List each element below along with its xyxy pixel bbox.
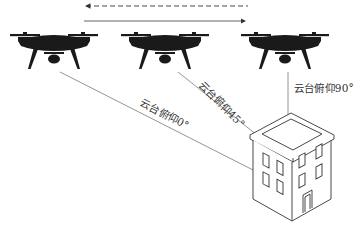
drone-icon <box>121 32 209 69</box>
diagram-canvas: 云台俯仰0° 云台俯仰45° 云台俯仰90° <box>0 0 361 233</box>
drone-icon <box>241 32 329 69</box>
flight-direction-arrows <box>84 6 248 21</box>
gimbal-pitch-90-label: 云台俯仰90° <box>294 80 354 95</box>
drone-icon <box>10 32 98 69</box>
building-icon <box>250 113 334 221</box>
sight-line-0deg <box>60 72 257 172</box>
